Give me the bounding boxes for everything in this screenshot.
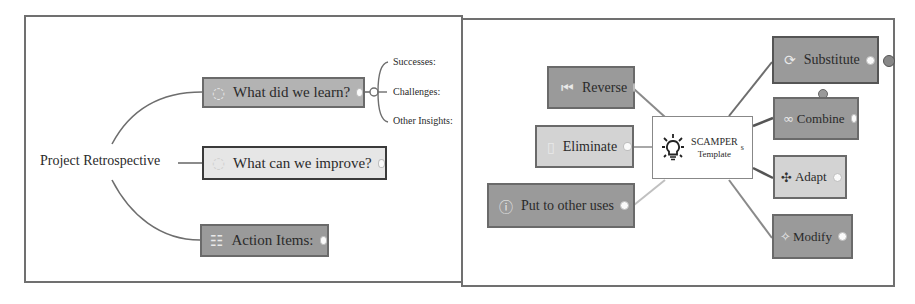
expand-dot-icon[interactable] — [851, 114, 857, 123]
branch-what-did-we-learn[interactable]: ◌ What did we learn? — [202, 77, 365, 108]
expand-dot-icon[interactable] — [833, 173, 842, 182]
center-title: SCAMPER — [691, 135, 738, 148]
add-child-handle[interactable] — [883, 55, 895, 67]
branch-what-can-we-improve[interactable]: ◌ What can we improve? — [202, 146, 387, 180]
list-icon: ☷ — [210, 232, 223, 250]
node-label: Modify — [793, 229, 832, 245]
expand-dot-icon[interactable] — [378, 159, 385, 168]
node-modify[interactable]: ✧ Modify — [772, 214, 853, 259]
node-combine[interactable]: ∞ Combine — [773, 97, 859, 140]
expand-dot-icon[interactable] — [620, 201, 629, 210]
node-put-to-other-uses[interactable]: ⓘ Put to other uses — [487, 183, 635, 228]
center-marker: s — [741, 143, 744, 152]
node-label: Put to other uses — [521, 198, 614, 214]
scamper-center-node[interactable]: SCAMPER Template s — [652, 116, 753, 179]
node-label: Combine — [797, 111, 845, 127]
node-eliminate[interactable]: ▯ Eliminate — [535, 125, 634, 168]
branch-label: What can we improve? — [233, 155, 372, 172]
loop-icon: ◌ — [212, 84, 225, 102]
sub-item-successes[interactable]: Successes: — [393, 56, 436, 67]
link-icon: ∞ — [783, 111, 794, 126]
expand-dot-icon[interactable] — [320, 236, 327, 245]
sub-item-other-insights[interactable]: Other Insights: — [393, 115, 453, 126]
node-label: Substitute — [804, 52, 860, 68]
expand-dot-icon[interactable] — [623, 142, 632, 151]
branch-label: What did we learn? — [233, 84, 350, 101]
expand-dot-icon[interactable] — [633, 83, 635, 92]
node-label: Eliminate — [563, 139, 617, 155]
branch-action-items[interactable]: ☷ Action Items: — [200, 224, 329, 257]
wand-icon: ✧ — [780, 229, 791, 244]
lightbulb-icon — [661, 132, 685, 164]
adapt-icon: ✣ — [781, 170, 792, 185]
loop-icon: ◌ — [212, 154, 225, 172]
trash-icon: ▯ — [547, 139, 555, 155]
branch-label: Action Items: — [231, 232, 313, 249]
question-icon: ⓘ — [499, 196, 513, 216]
expand-dot-icon[interactable] — [866, 56, 875, 65]
node-label: Adapt — [795, 169, 827, 185]
node-substitute[interactable]: ⟳ Substitute — [772, 36, 879, 84]
root-node[interactable]: Project Retrospective — [40, 153, 160, 169]
expand-dot-icon[interactable] — [838, 232, 847, 241]
rewind-icon: ⏮ — [561, 79, 574, 96]
node-reverse[interactable]: ⏮ Reverse — [547, 66, 635, 109]
center-subtitle: Template — [691, 148, 738, 161]
expand-dot-icon[interactable] — [356, 88, 363, 97]
sub-item-challenges[interactable]: Challenges: — [393, 86, 440, 97]
node-label: Reverse — [582, 80, 627, 96]
node-adapt[interactable]: ✣ Adapt — [773, 155, 847, 199]
swap-icon: ⟳ — [784, 52, 796, 68]
